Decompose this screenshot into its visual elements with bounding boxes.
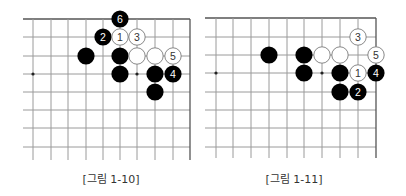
- move-number-label: 4: [170, 68, 176, 80]
- black-stone: [111, 65, 128, 82]
- black-stone: [146, 83, 163, 100]
- black-stone: [146, 65, 163, 82]
- star-point-icon: [31, 72, 34, 75]
- black-stone: [295, 46, 312, 63]
- figure-caption-1-11: [그림 1-11]: [265, 170, 322, 186]
- move-number-label: 5: [170, 50, 176, 62]
- black-stone-4: 4: [367, 64, 384, 81]
- white-stone-5: 5: [368, 47, 384, 63]
- black-stone: [331, 64, 348, 81]
- white-stone-5: 5: [165, 48, 181, 64]
- black-stone: [77, 47, 94, 64]
- black-stone-4: 4: [164, 65, 181, 82]
- black-stone: [111, 47, 128, 64]
- move-number-label: 5: [373, 49, 379, 61]
- go-board-fig-1-10: 621354: [23, 10, 190, 160]
- go-board-fig-1-11: 35142: [205, 18, 385, 158]
- move-number-label: 6: [117, 13, 123, 25]
- move-number-label: 1: [117, 31, 123, 43]
- move-number-label: 2: [355, 86, 361, 98]
- white-stone-3: 3: [350, 29, 366, 45]
- black-stone-2: 2: [94, 28, 111, 45]
- black-stone-2: 2: [349, 83, 366, 100]
- go-diagrams-canvas: 621354 35142: [0, 0, 406, 196]
- black-stone: [331, 83, 348, 100]
- move-number-label: 3: [134, 31, 140, 43]
- white-stone-1: 1: [112, 29, 128, 45]
- move-number-label: 2: [100, 31, 106, 43]
- star-point-icon: [135, 72, 138, 75]
- white-stone: [314, 47, 330, 63]
- white-stone: [129, 48, 145, 64]
- black-stone: [295, 64, 312, 81]
- black-stone-6: 6: [111, 10, 128, 27]
- figure-caption-1-10: [그림 1-10]: [82, 170, 139, 186]
- white-stone: [332, 47, 348, 63]
- star-point-icon: [320, 71, 323, 74]
- move-number-label: 3: [355, 31, 361, 43]
- white-stone-1: 1: [350, 65, 366, 81]
- star-point-icon: [214, 71, 217, 74]
- move-number-label: 1: [355, 67, 361, 79]
- white-stone: [147, 48, 163, 64]
- white-stone-3: 3: [129, 29, 145, 45]
- move-number-label: 4: [373, 67, 379, 79]
- black-stone: [260, 46, 277, 63]
